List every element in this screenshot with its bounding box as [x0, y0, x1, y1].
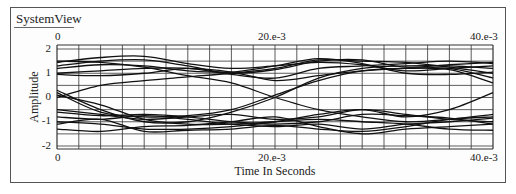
plot-area	[0, 0, 516, 194]
